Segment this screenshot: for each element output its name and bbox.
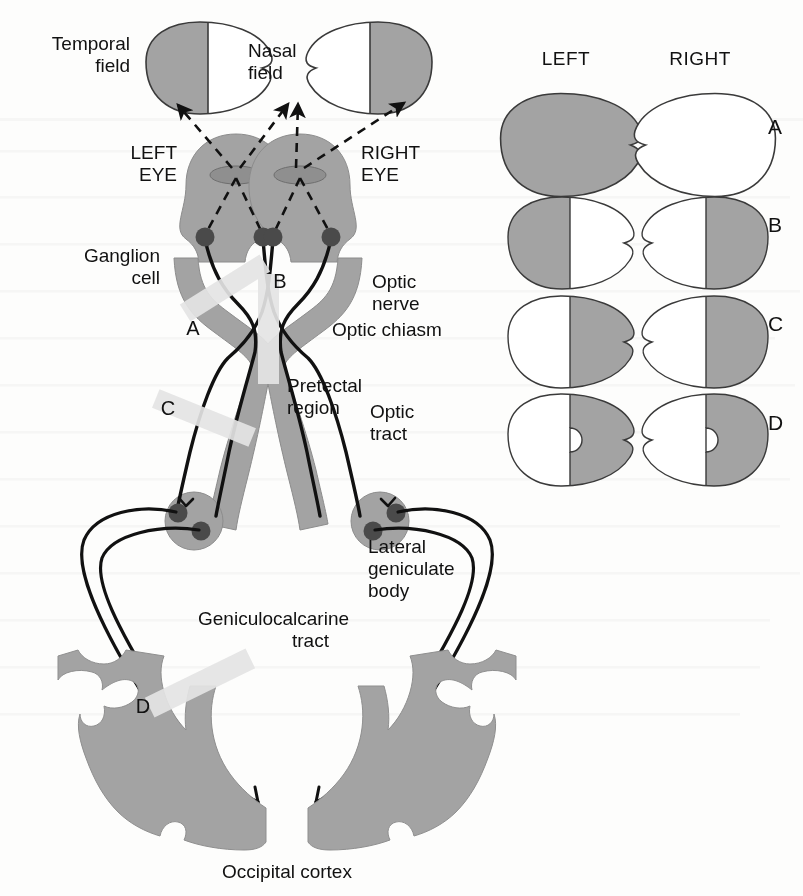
field-row-letter-B: B [768, 213, 782, 236]
label-lgb-line3: body [368, 580, 410, 601]
label-optic-tract-line2: tract [370, 423, 408, 444]
lesion-letter-D: D [136, 695, 150, 717]
visual-pathway-diagram: A B C D Temporal field Nasal field LEFT … [0, 0, 803, 896]
lgb-left-neuron-lower [192, 522, 211, 541]
field-panel-header-right: RIGHT [669, 48, 731, 69]
label-left-eye-line1: LEFT [131, 142, 178, 163]
label-ganglion-cell-line1: Ganglion [84, 245, 160, 266]
field-row-letter-C: C [768, 312, 783, 335]
label-optic-tract-line1: Optic [370, 401, 414, 422]
ganglion-cell-right-temporal [322, 228, 341, 247]
field-row-letter-A: A [768, 115, 782, 138]
figure-canvas: A B C D Temporal field Nasal field LEFT … [0, 0, 803, 896]
field-defect-panel: LEFT RIGHT A [501, 48, 784, 486]
field-panel-header-left: LEFT [542, 48, 590, 69]
right-eye-visual-field [306, 22, 432, 114]
label-lgb-line2: geniculate [368, 558, 455, 579]
label-occipital-cortex: Occipital cortex [222, 861, 352, 882]
ganglion-cell-right-nasal [264, 228, 283, 247]
label-nasal-field-line1: Nasal [248, 40, 297, 61]
label-optic-nerve-line2: nerve [372, 293, 420, 314]
label-right-eye-line1: RIGHT [361, 142, 421, 163]
lesion-letter-C: C [161, 397, 175, 419]
label-optic-nerve-line1: Optic [372, 271, 416, 292]
label-left-eye-line2: EYE [139, 164, 177, 185]
field-row-A: A [501, 93, 782, 196]
right-eye-lens [274, 166, 326, 184]
occipital-cortex-left-hemisphere [58, 650, 266, 850]
field-row-D: D [508, 394, 783, 486]
label-temporal-field-line1: Temporal [52, 33, 130, 54]
label-lgb-line1: Lateral [368, 536, 426, 557]
lesion-letter-B: B [273, 270, 286, 292]
label-right-eye-line2: EYE [361, 164, 399, 185]
label-geniculocalcarine-line2: tract [292, 630, 330, 651]
lesion-letter-A: A [186, 317, 200, 339]
field-row-letter-D: D [768, 411, 783, 434]
label-nasal-field-line2: field [248, 62, 283, 83]
label-pretectal-line2: region [287, 397, 340, 418]
field-row-C: C [508, 296, 783, 388]
label-temporal-field-line2: field [95, 55, 130, 76]
label-optic-chiasm: Optic chiasm [332, 319, 442, 340]
label-pretectal-line1: Pretectal [287, 375, 362, 396]
occipital-cortex-right-hemisphere [308, 650, 516, 850]
ganglion-cell-left-temporal [196, 228, 215, 247]
label-ganglion-cell-line2: cell [131, 267, 160, 288]
label-geniculocalcarine-line1: Geniculocalcarine [198, 608, 349, 629]
